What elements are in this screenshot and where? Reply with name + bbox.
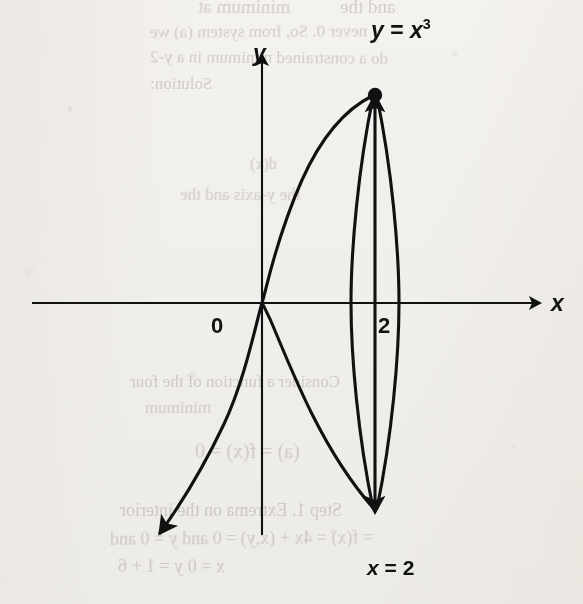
cubic-curve-y-equals-x-cubed xyxy=(160,96,372,533)
vertical-line-label: x = 2 xyxy=(367,556,414,580)
intersection-point-marker xyxy=(368,88,382,102)
vertical-line-value: 2 xyxy=(403,556,415,579)
vertical-line-variable: x xyxy=(367,556,379,579)
origin-label: 0 xyxy=(211,313,223,339)
curve-equation-equals: = xyxy=(384,17,410,43)
curve-equation-base: x xyxy=(410,17,423,43)
curve-equation-exponent: 3 xyxy=(423,16,431,32)
y-axis-label: y xyxy=(253,40,266,67)
x-tick-label-2: 2 xyxy=(378,313,390,339)
graph-canvas xyxy=(0,0,583,604)
vertical-line-equals: = xyxy=(379,556,403,579)
curve-equation-label: y = x3 xyxy=(371,16,431,44)
math-figure: minimum atand thenever 0. So, from syste… xyxy=(0,0,583,604)
curve-equation-variable: y xyxy=(371,17,384,43)
x-axis-label: x xyxy=(551,290,564,317)
